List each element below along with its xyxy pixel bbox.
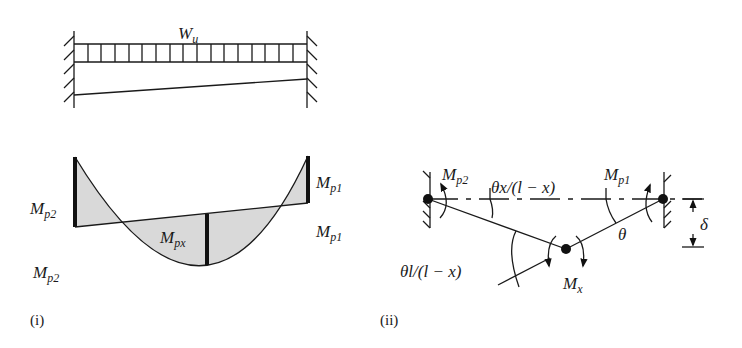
- load-label: Wu: [178, 24, 198, 46]
- mid-hinge: [561, 244, 571, 254]
- extended-segment: [498, 258, 550, 285]
- label-mid-angle: θl/(l − x): [400, 262, 462, 281]
- right-wall-hatch: [307, 36, 317, 102]
- diagram-canvas: Wu Mp2 Mp2 Mp1 Mp1 Mpx (i): [0, 0, 742, 348]
- left-moment-arrow: [440, 184, 446, 218]
- right-moment-arrow: [646, 185, 652, 222]
- label-mp2: Mp2: [441, 165, 468, 187]
- moment-shading: [75, 156, 308, 266]
- beam-line: [74, 79, 307, 95]
- distributed-load: [74, 44, 307, 62]
- left-segment: [428, 199, 566, 249]
- mid-moment-arrow-left: [548, 236, 556, 266]
- label-mp2-bottom: Mp2: [32, 263, 59, 285]
- mid-angle-arc: [512, 231, 519, 287]
- label-mp1-top: Mp1: [315, 173, 342, 195]
- left-hinge: [423, 194, 433, 204]
- moment-diagram: Mp2 Mp2 Mp1 Mp1 Mpx (i): [29, 156, 342, 329]
- delta-label: δ: [700, 215, 709, 234]
- label-left-angle: θx/(l − x): [491, 178, 556, 197]
- caption-i: (i): [30, 312, 44, 329]
- right-hinge: [658, 194, 668, 204]
- label-mp2-top: Mp2: [29, 199, 56, 221]
- label-mp1-bottom: Mp1: [315, 222, 342, 244]
- right-angle-arc: [606, 188, 616, 223]
- left-wall-hatch: [64, 36, 74, 102]
- fixed-beam: Wu: [64, 24, 317, 108]
- label-right-angle: θ: [618, 225, 626, 244]
- caption-ii: (ii): [380, 312, 398, 329]
- collapse-mechanism: δ Mp2 Mp1 Mx θx/(l − x) θ θl/(l − x) (ii…: [380, 165, 709, 329]
- label-mx: Mx: [562, 274, 583, 296]
- label-mp1: Mp1: [603, 165, 630, 187]
